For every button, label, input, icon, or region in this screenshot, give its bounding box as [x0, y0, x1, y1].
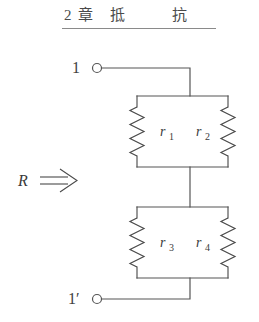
input-resistance-label: R [17, 169, 77, 192]
r4-subscript: 4 [205, 242, 210, 253]
wire-top-lead [102, 68, 190, 96]
r2-subscript: 2 [205, 131, 210, 142]
wire-bottom-lead [102, 278, 190, 299]
r3-label: r [160, 235, 166, 250]
r3-zigzag [130, 218, 144, 267]
r1-subscript: 1 [169, 131, 174, 142]
r2-label: r [196, 124, 202, 139]
terminal-top-node [93, 64, 102, 73]
resistor-r4: r 4 [196, 207, 235, 278]
terminal-top-group: 1 [72, 59, 190, 96]
lower-parallel-block: r 3 r 4 [130, 207, 235, 278]
figure-title: 2 章 抵 抗 [62, 6, 216, 29]
resistor-r2: r 2 [196, 96, 235, 167]
r3-subscript: 3 [169, 242, 174, 253]
r4-label: r [196, 235, 202, 250]
resistor-r3: r 3 [130, 207, 174, 278]
title-subject-char-2: 抗 [172, 6, 187, 24]
upper-parallel-block: r 1 r 2 [130, 96, 235, 167]
title-chapter-number: 2 [64, 7, 72, 23]
terminal-top-label: 1 [72, 59, 80, 76]
terminal-bottom-label: 1′ [68, 290, 80, 307]
r1-zigzag [130, 107, 144, 156]
input-resistance-symbol: R [17, 172, 28, 189]
r2-zigzag [221, 107, 235, 156]
r4-zigzag [221, 218, 235, 267]
title-chapter-word: 章 [78, 6, 93, 24]
terminal-bottom-group: 1′ [68, 278, 190, 307]
double-arrow-icon [40, 169, 77, 192]
resistor-r1: r 1 [130, 96, 174, 167]
circuit-diagram-canvas: 2 章 抵 抗 1 R [0, 0, 259, 322]
title-subject-char-1: 抵 [110, 6, 125, 24]
terminal-bottom-node [93, 295, 102, 304]
r1-label: r [160, 124, 166, 139]
